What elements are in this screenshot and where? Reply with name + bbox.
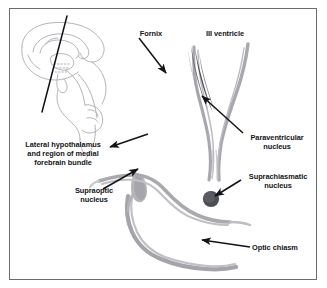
label-paraventricular-nucleus: Paraventricular nucleus <box>240 133 314 151</box>
suprachiasmatic-nucleus <box>203 191 219 207</box>
label-supraoptic-nucleus: Supraoptic nucleus <box>62 186 126 204</box>
label-optic-chiasm: Optic chiasm <box>252 243 314 252</box>
label-suprachiasmatic-nucleus: Suprachiasmatic nucleus <box>238 172 318 190</box>
anatomical-figure: Fornix III ventricle Lateral hypothalamu… <box>0 0 327 288</box>
label-third-ventricle: III ventricle <box>192 29 258 38</box>
section-plane-line <box>42 16 67 112</box>
fornix-arrow <box>139 38 166 73</box>
optic-chiasm-arrow <box>202 240 250 247</box>
lateral-hypothalamus-arrow <box>110 134 148 147</box>
label-lateral-hypothalamus: Lateral hypothalamus and region of media… <box>12 140 114 168</box>
label-fornix: Fornix <box>128 29 174 38</box>
